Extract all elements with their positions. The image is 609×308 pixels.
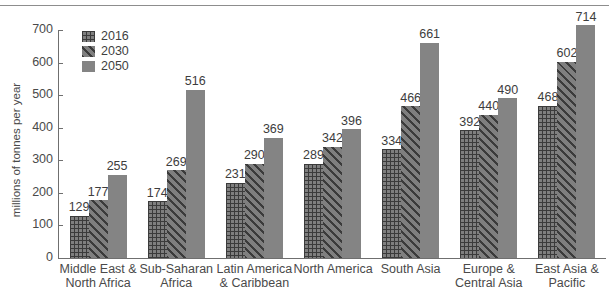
bar-2050: 396 <box>342 129 361 258</box>
bar-2016: 289 <box>304 164 323 258</box>
x-category-label: Middle East &North Africa <box>59 262 137 290</box>
y-tick-label: 500 <box>13 88 53 101</box>
y-tick-400: 400 <box>0 128 53 129</box>
x-category-label: Sub-SaharanAfrica <box>137 262 215 290</box>
y-tick-label: 300 <box>13 153 53 166</box>
y-tick-200: 200 <box>0 193 53 194</box>
top-divider-rule <box>0 5 609 6</box>
bar-value-label: 490 <box>496 84 519 97</box>
bar-value-label: 289 <box>302 149 325 162</box>
x-category-line1: Sub-Saharan <box>139 262 213 276</box>
bar-group: 334466661 <box>382 30 439 258</box>
x-category-label: East Asia &Pacific <box>528 262 606 290</box>
x-category-label: Latin America& Caribbean <box>215 262 293 290</box>
x-axis-line <box>58 258 606 259</box>
bar-2030: 342 <box>323 147 342 258</box>
bar-chart: millions of tonnes per year 010020030040… <box>0 0 609 308</box>
bar-value-label: 174 <box>146 187 169 200</box>
bar-2050: 369 <box>264 138 283 258</box>
x-category-line2: North Africa <box>59 276 137 290</box>
bar-value-label: 392 <box>458 116 481 129</box>
bar-2016: 468 <box>538 106 557 258</box>
y-tick-label: 0 <box>13 251 53 264</box>
y-tick-600: 600 <box>0 63 53 64</box>
bar-value-label: 440 <box>477 100 500 113</box>
bar-2030: 466 <box>401 106 420 258</box>
bar-group: 129177255 <box>70 30 127 258</box>
bar-2050: 490 <box>498 98 517 258</box>
bar-group: 231290369 <box>226 30 283 258</box>
bar-group: 468602714 <box>538 30 595 258</box>
x-category-label: Europe &Central Asia <box>450 262 528 290</box>
bar-value-label: 255 <box>106 160 129 173</box>
y-tick-mark <box>58 258 63 259</box>
bar-value-label: 231 <box>224 168 247 181</box>
x-category-line2: Central Asia <box>450 276 528 290</box>
x-category-line1: North America <box>293 262 372 276</box>
x-category-line2: Pacific <box>528 276 606 290</box>
bar-2050: 516 <box>186 90 205 258</box>
y-tick-300: 300 <box>0 160 53 161</box>
bar-value-label: 369 <box>262 123 285 136</box>
y-tick-label: 700 <box>13 23 53 36</box>
bar-value-label: 468 <box>536 91 559 104</box>
bar-2016: 334 <box>382 149 401 258</box>
bar-value-label: 466 <box>399 92 422 105</box>
bar-value-label: 269 <box>165 156 188 169</box>
x-category-line1: South Asia <box>381 262 441 276</box>
bar-2016: 231 <box>226 183 245 258</box>
bar-value-label: 661 <box>418 28 441 41</box>
bar-2050: 714 <box>576 25 595 258</box>
x-category-label: North America <box>293 262 371 276</box>
y-tick-label: 600 <box>13 56 53 69</box>
bar-value-label: 516 <box>184 75 207 88</box>
x-category-line2: Africa <box>137 276 215 290</box>
bar-2030: 177 <box>89 200 108 258</box>
bar-2030: 440 <box>479 115 498 258</box>
bar-2050: 255 <box>108 175 127 258</box>
y-tick-700: 700 <box>0 30 53 31</box>
y-tick-100: 100 <box>0 225 53 226</box>
x-category-label: South Asia <box>372 262 450 276</box>
x-category-line2: & Caribbean <box>215 276 293 290</box>
y-tick-500: 500 <box>0 95 53 96</box>
bar-group: 392440490 <box>460 30 517 258</box>
bar-group: 289342396 <box>304 30 361 258</box>
bar-value-label: 714 <box>574 11 597 24</box>
bar-2016: 392 <box>460 130 479 258</box>
bar-value-label: 396 <box>340 115 363 128</box>
bar-2016: 174 <box>148 201 167 258</box>
bar-2016: 129 <box>70 216 89 258</box>
y-tick-0: 0 <box>0 258 53 259</box>
bar-group: 174269516 <box>148 30 205 258</box>
plot-area: 1291772551742695162312903692893423963344… <box>59 30 606 258</box>
bar-value-label: 334 <box>380 135 403 148</box>
x-category-line1: East Asia & <box>535 262 599 276</box>
x-category-line1: Middle East & <box>60 262 137 276</box>
bar-value-label: 342 <box>321 132 344 145</box>
bar-value-label: 290 <box>243 149 266 162</box>
bar-2030: 290 <box>245 164 264 258</box>
bar-2050: 661 <box>420 43 439 258</box>
y-tick-label: 400 <box>13 121 53 134</box>
bar-value-label: 129 <box>68 201 91 214</box>
bar-value-label: 602 <box>555 47 578 60</box>
x-category-line1: Latin America <box>216 262 292 276</box>
x-category-line1: Europe & <box>463 262 515 276</box>
y-tick-label: 200 <box>13 186 53 199</box>
y-tick-label: 100 <box>13 218 53 231</box>
bar-2030: 269 <box>167 170 186 258</box>
bar-2030: 602 <box>557 62 576 258</box>
bar-value-label: 177 <box>87 186 110 199</box>
